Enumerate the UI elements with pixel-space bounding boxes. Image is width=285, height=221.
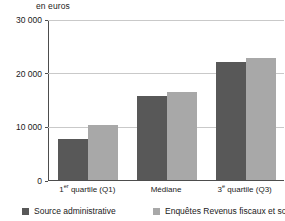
bar <box>88 125 118 180</box>
legend-item-source-administrative: Source administrative <box>22 205 116 217</box>
chart-legend: Source administrative Enquêtes Revenus f… <box>22 205 285 219</box>
y-axis-tick-label: 20 000 <box>16 69 42 78</box>
y-axis-tick <box>45 127 48 128</box>
bar <box>246 58 276 180</box>
bar <box>167 92 197 180</box>
x-axis-line <box>48 180 284 181</box>
y-axis-tick-label: 0 <box>37 177 42 186</box>
bar-chart: en euros 010 00020 00030 000 1er quartil… <box>0 0 285 221</box>
bar-group <box>137 20 197 180</box>
x-axis-category-labels: 1er quartile (Q1)Médiane3e quartile (Q3) <box>48 184 284 196</box>
legend-item-label: Enquêtes Revenus fiscaux et sociaux <box>165 206 285 216</box>
y-axis-labels: 010 00020 00030 000 <box>0 20 44 181</box>
y-axis-tick <box>45 73 48 74</box>
bar-group <box>58 20 118 180</box>
bar <box>216 62 246 180</box>
legend-item-enquetes-revenus-fiscaux-et-sociaux: Enquêtes Revenus fiscaux et sociaux <box>153 205 285 217</box>
bar <box>137 96 167 180</box>
x-axis-category-label: Médiane <box>151 184 182 195</box>
legend-item-label: Source administrative <box>34 206 116 216</box>
plot-area <box>48 20 284 181</box>
y-axis-tick <box>45 20 48 21</box>
y-axis-tick <box>45 181 48 182</box>
chart-unit-caption: en euros <box>36 0 70 12</box>
x-axis-category-label: 1er quartile (Q1) <box>59 184 115 195</box>
y-axis-tick-label: 30 000 <box>16 16 42 25</box>
legend-swatch-icon <box>22 208 29 215</box>
y-axis-tick-label: 10 000 <box>16 123 42 132</box>
x-axis-category-label: 3e quartile (Q3) <box>218 184 272 195</box>
bar <box>58 139 88 180</box>
legend-swatch-icon <box>153 208 160 215</box>
bars-layer <box>49 20 284 180</box>
bar-group <box>216 20 276 180</box>
